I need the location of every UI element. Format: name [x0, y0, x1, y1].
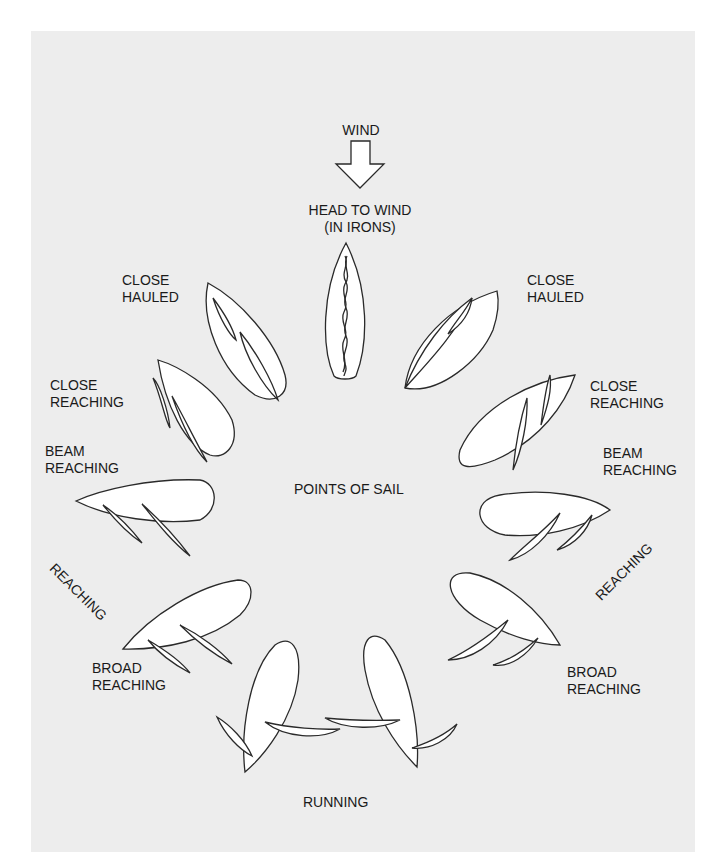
boat-close-reaching-right [459, 375, 575, 470]
label-beam-reaching-right: BEAM REACHING [603, 445, 677, 479]
label-broad-reaching-right: BROAD REACHING [567, 664, 641, 698]
label-close-hauled-right: CLOSE HAULED [527, 272, 584, 306]
label-close-hauled-left: CLOSE HAULED [122, 272, 179, 306]
boat-close-hauled-right [405, 291, 498, 389]
label-close-reaching-right: CLOSE REACHING [590, 378, 664, 412]
diagram-title: POINTS OF SAIL [294, 481, 404, 498]
boat-head-to-wind [325, 243, 364, 379]
boat-close-hauled-left [206, 283, 286, 400]
boat-running-right [325, 636, 457, 767]
boat-broad-reaching-right [448, 573, 560, 666]
boat-beam-reaching-right [480, 492, 610, 560]
wind-arrow-icon [336, 141, 384, 188]
boat-beam-reaching-left [76, 480, 214, 556]
label-broad-reaching-left: BROAD REACHING [92, 660, 166, 694]
label-head-to-wind: HEAD TO WIND (IN IRONS) [285, 202, 435, 236]
boat-running-left [217, 641, 340, 772]
label-beam-reaching-left: BEAM REACHING [45, 443, 119, 477]
label-close-reaching-left: CLOSE REACHING [50, 377, 124, 411]
label-running: RUNNING [303, 794, 368, 811]
wind-label: WIND [341, 122, 381, 139]
boat-close-reaching-left [153, 360, 234, 462]
